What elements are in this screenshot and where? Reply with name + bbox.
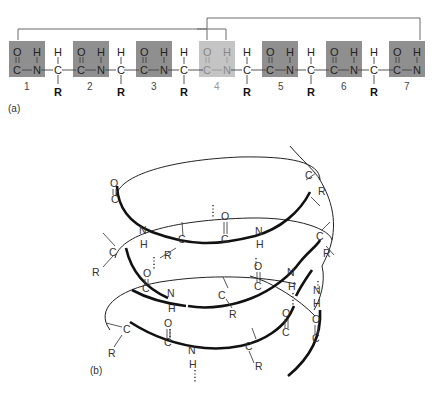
r-group: R	[323, 247, 331, 259]
carbonyl-oxygen: O	[143, 267, 151, 279]
svg-text:H: H	[243, 46, 251, 58]
svg-text:C: C	[54, 64, 62, 76]
svg-text:H: H	[180, 46, 188, 58]
amide-hydrogen: H	[256, 238, 264, 250]
alpha-helix-diagram: O H C N 1 O H C N 2 O H C N 3 O H C N 4	[0, 0, 447, 397]
alpha-carbon: C	[245, 340, 253, 352]
hbond-connector-4-7	[207, 18, 420, 40]
alpha-carbon: C	[305, 169, 313, 181]
carbonyl-carbon: C	[111, 193, 119, 205]
nitrogen-atom: N	[223, 64, 231, 76]
carbon-atom: C	[330, 64, 338, 76]
amide-hydrogen: H	[288, 280, 296, 292]
panel-a-label: (a)	[8, 103, 20, 114]
carbonyl-carbon: C	[312, 332, 320, 344]
svg-text:H: H	[117, 46, 125, 58]
carbon-atom: C	[266, 64, 274, 76]
svg-text:C: C	[370, 64, 378, 76]
r-group: R	[255, 360, 263, 372]
svg-text:C: C	[117, 64, 125, 76]
oxygen-atom: O	[77, 46, 86, 58]
amide-nitrogen: N	[313, 284, 321, 296]
r-group: R	[117, 86, 125, 98]
r-group: R	[229, 308, 237, 320]
amide-nitrogen: N	[139, 224, 147, 236]
alpha-carbon-1: H C R	[54, 46, 62, 98]
r-group: R	[180, 86, 188, 98]
helix-front-turn-3	[130, 306, 294, 348]
panel-b-label: (b)	[90, 365, 102, 376]
unit-number: 3	[151, 81, 157, 92]
r-group: R	[54, 86, 62, 98]
carbonyl-oxygen: O	[221, 210, 229, 222]
unit-number: 1	[24, 81, 30, 92]
r-group: R	[164, 249, 172, 261]
carbon-atom: C	[77, 64, 85, 76]
svg-text:C: C	[243, 64, 251, 76]
amide-nitrogen: N	[188, 344, 196, 356]
nitrogen-atom: N	[286, 64, 294, 76]
carbon-atom: C	[140, 64, 148, 76]
carbon-atom: C	[13, 64, 21, 76]
r-group: R	[307, 86, 315, 98]
unit-number: 5	[278, 81, 284, 92]
alpha-carbon-2: H C R	[117, 46, 125, 98]
r-group: R	[243, 86, 251, 98]
carbonyl-oxygen: O	[110, 177, 118, 189]
carbonyl-carbon: C	[164, 336, 172, 348]
panel-b: O C N H C R O C N H C R C R C R O C N H …	[90, 146, 334, 383]
alpha-carbon-4: H C R	[243, 46, 251, 98]
hydrogen-atom: H	[160, 46, 168, 58]
hbond-connector-1-4	[18, 29, 226, 40]
helix-back-turn-3	[105, 277, 296, 330]
carbonyl-oxygen: O	[254, 260, 262, 272]
oxygen-atom: O	[330, 46, 339, 58]
carbonyl-carbon: C	[142, 282, 150, 294]
alpha-carbon-3: H C R	[180, 46, 188, 98]
alpha-carbon-5: H C R	[307, 46, 315, 98]
r-group: R	[318, 185, 326, 197]
svg-text:H: H	[307, 46, 315, 58]
amide-nitrogen: N	[287, 266, 295, 278]
carbonyl-oxygen: O	[164, 317, 172, 329]
helix-atoms: O C N H C R O C N H C R C R C R O C N H …	[92, 169, 331, 372]
hydrogen-atom: H	[350, 46, 358, 58]
panel-a: O H C N 1 O H C N 2 O H C N 3 O H C N 4	[8, 18, 425, 114]
hydrogen-atom: H	[223, 46, 231, 58]
amide-hydrogen: H	[313, 297, 321, 309]
carbonyl-oxygen: O	[282, 307, 290, 319]
oxygen-atom: O	[393, 46, 402, 58]
r-group: R	[370, 86, 378, 98]
r-group: R	[108, 347, 116, 359]
unit-number: 6	[341, 81, 347, 92]
hydrogen-atom: H	[286, 46, 294, 58]
amide-hydrogen: H	[189, 358, 197, 370]
alpha-carbon: C	[218, 289, 226, 301]
carbonyl-oxygen: O	[312, 313, 320, 325]
nitrogen-atom: N	[97, 64, 105, 76]
unit-number: 2	[87, 81, 93, 92]
svg-text:C: C	[180, 64, 188, 76]
oxygen-atom: O	[203, 46, 212, 58]
alpha-carbon-6: H C R	[370, 46, 378, 98]
hydrogen-atom: H	[33, 46, 41, 58]
svg-text:C: C	[307, 64, 315, 76]
nitrogen-atom: N	[33, 64, 41, 76]
carbonyl-carbon: C	[221, 233, 229, 245]
svg-text:H: H	[54, 46, 62, 58]
alpha-carbon: C	[109, 246, 117, 258]
oxygen-atom: O	[266, 46, 275, 58]
alpha-carbon: C	[123, 323, 131, 335]
unit-number: 7	[404, 81, 410, 92]
nitrogen-atom: N	[350, 64, 358, 76]
alpha-carbon: C	[178, 233, 186, 245]
amide-hydrogen: H	[168, 302, 176, 314]
hydrogen-atom: H	[413, 46, 421, 58]
alpha-carbon: C	[316, 230, 324, 242]
hydrogen-atom: H	[97, 46, 105, 58]
svg-text:H: H	[370, 46, 378, 58]
amide-nitrogen: N	[167, 287, 175, 299]
r-group: R	[92, 266, 100, 278]
carbon-atom: C	[393, 64, 401, 76]
helix-back-turn-1	[116, 157, 320, 196]
